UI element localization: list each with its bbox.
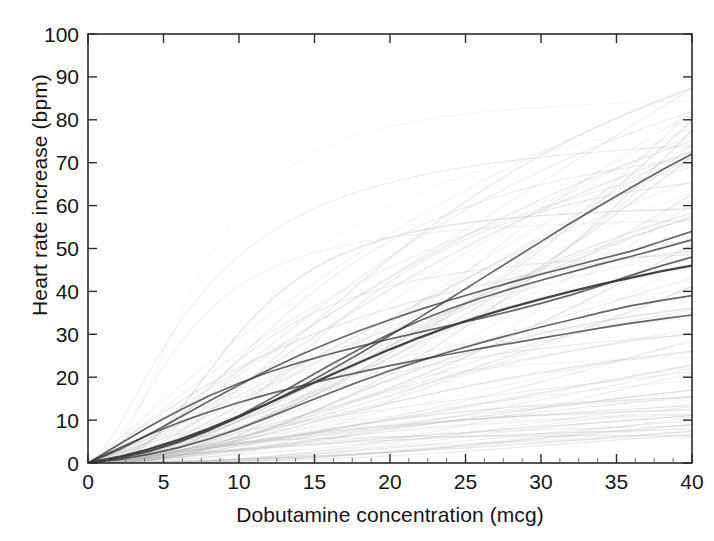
y-tick-label: 20 [56,366,79,389]
y-tick-label: 0 [67,452,79,475]
y-tick-label: 30 [56,323,79,346]
y-tick-label: 50 [56,237,79,260]
y-tick-label: 40 [56,280,79,303]
x-tick-label: 15 [303,470,326,493]
x-tick-label: 20 [378,470,401,493]
x-tick-label: 40 [680,470,703,493]
y-tick-label: 60 [56,194,79,217]
x-tick-label: 30 [529,470,552,493]
y-tick-label: 80 [56,108,79,131]
x-tick-label: 0 [82,470,94,493]
chart-figure: 01020304050607080901000510152025303540 H… [0,0,714,541]
x-tick-label: 25 [454,470,477,493]
chart-plot-svg: 01020304050607080901000510152025303540 [0,0,714,541]
y-tick-label: 10 [56,409,79,432]
y-tick-label: 90 [56,65,79,88]
y-tick-label: 100 [44,23,79,46]
x-tick-label: 5 [158,470,170,493]
x-tick-label: 35 [605,470,628,493]
y-tick-label: 70 [56,151,79,174]
x-tick-label: 10 [227,470,250,493]
